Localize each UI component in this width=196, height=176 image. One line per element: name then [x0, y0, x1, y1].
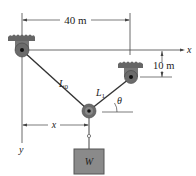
dimension-10m-label: 10 m — [153, 60, 174, 71]
right-fixed-pulley — [118, 62, 143, 84]
moving-pulley — [82, 104, 96, 118]
l1-label: L1 — [95, 87, 106, 100]
left-fixed-pulley — [8, 35, 35, 58]
y-axis: y — [18, 50, 24, 155]
pulley-system-diagram: 40 m x 10 m y x θ L0 L1 — [0, 0, 196, 176]
dimension-40m: 40 m — [22, 13, 130, 55]
weight-block: W — [74, 149, 104, 174]
dimension-40m-label: 40 m — [64, 14, 87, 26]
l0-label: L0 — [58, 78, 69, 91]
hanger — [87, 118, 90, 149]
y-axis-label: y — [18, 144, 24, 155]
cable-l0 — [24, 52, 87, 109]
angle-theta: θ — [102, 95, 133, 112]
dimension-x: x — [22, 119, 89, 130]
theta-label: θ — [117, 95, 122, 106]
x-axis-label: x — [186, 44, 192, 55]
dimension-10m: 10 m — [140, 51, 174, 77]
x-axis: x — [22, 44, 192, 55]
dimension-x-label: x — [51, 119, 57, 130]
